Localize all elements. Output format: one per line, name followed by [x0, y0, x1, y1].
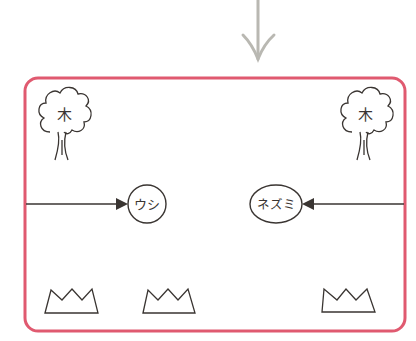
incoming-arrow: [243, 0, 274, 59]
crown-icon: [322, 289, 375, 312]
arrow-to-nezumi: [302, 198, 404, 210]
tree-right-label: 木: [358, 106, 373, 124]
node-ushi: ウシ: [128, 185, 166, 223]
tree-left-label: 木: [57, 106, 72, 124]
diagram-canvas: 木 木 ウシ ネズミ: [0, 0, 416, 341]
crown-icon: [45, 289, 98, 313]
node-nezumi-label: ネズミ: [257, 197, 296, 212]
node-nezumi: ネズミ: [250, 185, 302, 223]
arrow-to-ushi: [26, 198, 128, 210]
node-ushi-label: ウシ: [134, 197, 160, 212]
crown-icon: [143, 289, 195, 313]
